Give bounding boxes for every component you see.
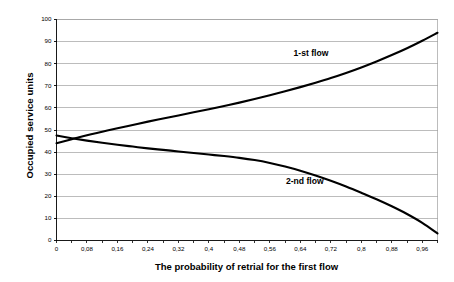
y-tick-label: 100 (26, 16, 52, 22)
x-axis-title: The probability of retrial for the first… (56, 261, 437, 272)
x-tick-label: 0,96 (402, 246, 442, 252)
series-label-1: 1-st flow (294, 48, 329, 58)
y-tick-label: 60 (26, 105, 52, 111)
y-tick-label: 70 (26, 83, 52, 89)
chart-plot-area (0, 0, 454, 282)
y-tick-label: 40 (26, 149, 52, 155)
series-line-1 (57, 33, 438, 144)
y-tick-label: 80 (26, 61, 52, 67)
y-tick-label: 90 (26, 38, 52, 44)
y-tick-label: 10 (26, 215, 52, 221)
series-label-2: 2-nd flow (286, 176, 324, 186)
y-tick-label: 30 (26, 171, 52, 177)
y-tick-label: 20 (26, 193, 52, 199)
series-lines (57, 33, 438, 234)
chart-figure: Occupied service units The probability o… (0, 0, 454, 282)
y-tick-label: 50 (26, 127, 52, 133)
y-tick-label: 0 (26, 237, 52, 243)
